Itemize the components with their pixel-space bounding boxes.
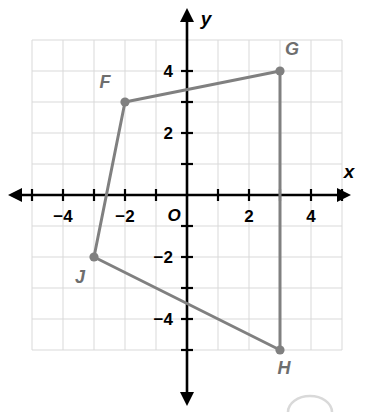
vertex-label-g: G xyxy=(285,39,299,59)
origin-label: O xyxy=(167,206,180,225)
x-tick-label: 2 xyxy=(244,207,253,226)
x-axis-label: x xyxy=(343,161,356,182)
x-axis-arrow-right xyxy=(337,188,351,202)
x-tick-label: −4 xyxy=(53,207,73,226)
y-axis-arrow-down xyxy=(180,392,194,406)
scan-artifact xyxy=(288,396,332,412)
y-axis-arrow-up xyxy=(180,8,194,22)
y-tick-label: −2 xyxy=(154,248,173,267)
x-tick-label: 4 xyxy=(306,207,316,226)
vertex-point-f xyxy=(120,97,129,106)
vertex-label-f: F xyxy=(100,72,112,92)
vertex-label-h: H xyxy=(278,358,292,378)
y-tick-label: −4 xyxy=(154,310,174,329)
y-tick-label: 2 xyxy=(164,124,173,143)
vertex-label-j: J xyxy=(75,267,86,287)
vertex-point-j xyxy=(89,252,98,261)
x-axis-arrow-left xyxy=(8,188,22,202)
x-tick-label: −2 xyxy=(115,207,134,226)
coordinate-plot: −4−22442−2−4 xyO FGHJ xyxy=(0,0,375,414)
y-tick-label: 4 xyxy=(164,62,174,81)
y-axis-label: y xyxy=(200,8,213,29)
axis-names: xyO xyxy=(167,8,355,225)
coordinate-plane-figure: −4−22442−2−4 xyO FGHJ xyxy=(0,0,375,414)
scan-artifact-arc xyxy=(288,396,332,412)
vertex-point-g xyxy=(275,66,284,75)
vertex-point-h xyxy=(275,345,284,354)
